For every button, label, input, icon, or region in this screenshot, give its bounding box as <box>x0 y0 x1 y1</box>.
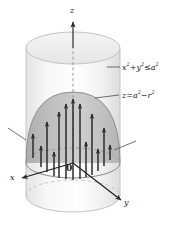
cyl-a-exp: 2 <box>156 61 159 67</box>
y-axis-label: y <box>124 198 129 207</box>
origin-label: 0 <box>66 163 72 173</box>
par-r-exp: 2 <box>151 89 154 95</box>
x-axis-label: x <box>10 173 15 182</box>
cylinder-equation-label: x2+y2≤a2 <box>122 61 159 72</box>
cyl-rel: ≤ <box>144 63 151 72</box>
diagram-svg <box>0 0 180 233</box>
figure-canvas: z x y 0 x2+y2≤a2 z=a2−r2 <box>0 0 180 233</box>
left-tick-leader <box>8 128 26 140</box>
par-eq: = <box>126 91 133 100</box>
z-axis-label: z <box>70 6 74 15</box>
par-minus: − <box>141 91 148 100</box>
paraboloid-equation-label: z=a2−r2 <box>122 89 155 100</box>
